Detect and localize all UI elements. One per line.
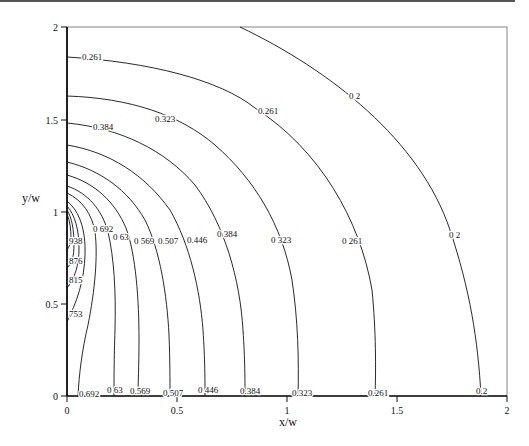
x-axis-title: x/w <box>279 415 297 429</box>
contour-label: 0 692 <box>79 389 99 399</box>
contour-label: 0 2 <box>349 91 360 101</box>
contour-label: 876 <box>69 256 83 266</box>
contour-lines <box>67 27 481 396</box>
x-tick-label: 0.5 <box>171 405 184 416</box>
contour-label: 0 323 <box>271 235 292 245</box>
contour-0.323 <box>67 96 298 396</box>
x-tick-label: 0 <box>65 405 70 416</box>
contour-0.384 <box>67 123 245 396</box>
contour-label: 0.261 <box>82 52 102 62</box>
contour-label: 0 384 <box>217 229 238 239</box>
y-tick-label: 0.5 <box>46 299 59 310</box>
contour-label: 0 446 <box>198 385 219 395</box>
contour-label: 0.569 <box>130 386 151 396</box>
contour-plot: 00.511.5200.511.52 0.2610.3230.2610 20.3… <box>0 0 529 446</box>
contour-label: 0.446 <box>187 235 208 245</box>
contour-label: 0 63 <box>107 385 123 395</box>
contour-label: 0.384 <box>240 386 261 396</box>
y-tick-label: 0 <box>53 391 58 402</box>
contour-0.261 <box>67 57 376 396</box>
contour-label: 0 261 <box>342 236 362 246</box>
contour-label: 0 692 <box>93 224 113 234</box>
x-tick-label: 1.5 <box>391 405 404 416</box>
contour-0.446 <box>67 145 205 396</box>
contour-label: 0.323 <box>155 114 176 124</box>
plot-frame <box>67 27 507 396</box>
contour-0.2 <box>240 27 481 396</box>
y-tick-label: 1 <box>53 207 58 218</box>
axis-ticks: 00.511.5200.511.52 <box>46 22 510 417</box>
contour-label: 0.323 <box>292 388 313 398</box>
contour-label: 753 <box>69 309 83 319</box>
contour-label: 0.384 <box>93 122 114 132</box>
y-tick-label: 2 <box>53 22 58 33</box>
contour-label: 815 <box>69 275 83 285</box>
contour-label: 0.261 <box>368 388 388 398</box>
contour-label: 0 507 <box>163 388 184 398</box>
contour-label: 0.507 <box>158 236 179 246</box>
contour-label: 0.2 <box>476 386 487 396</box>
contour-label: 0 569 <box>134 236 155 246</box>
x-tick-label: 2 <box>505 405 510 416</box>
contour-0.569 <box>67 175 139 396</box>
y-axis-title: y/w <box>22 191 40 205</box>
contour-label: 0 2 <box>449 230 460 240</box>
contour-label: 0 63 <box>113 232 129 242</box>
y-tick-label: 1.5 <box>46 115 59 126</box>
contour-label: 0.261 <box>258 106 278 116</box>
contour-label: 938 <box>69 236 83 246</box>
